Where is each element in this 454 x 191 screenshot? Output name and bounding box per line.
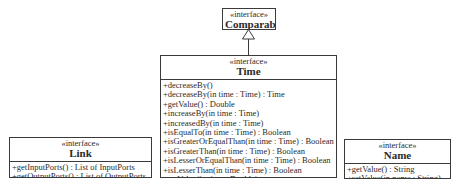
class-name: Time [163,66,334,77]
class-box-comparable: «interface» Comparable [222,8,276,30]
methods-compartment-time: +decreaseBy()+decreaseBy(in time : Time)… [161,79,336,177]
class-box-name: «interface» Name +getValue() : String+se… [344,139,451,179]
class-box-time: «interface» Time +decreaseBy()+decreaseB… [160,55,337,178]
class-header-time: «interface» Time [161,56,336,79]
class-header-link: «interface» Link [10,138,151,161]
methods-compartment-name: +getValue() : String+setValue(in name : … [345,163,450,178]
uml-class-diagram: «interface» Comparable «interface» Time … [0,0,454,191]
method-entry: +setValue(in time : Double) [163,175,335,177]
methods-compartment-link: +getInputPorts() : List of InputPorts+ge… [10,161,151,177]
class-name: Name [347,150,448,161]
class-box-link: «interface» Link +getInputPorts() : List… [9,137,152,178]
method-entry: +setValue(in name : String) [347,174,449,178]
class-name: Link [12,148,149,159]
method-entry: +getOutputPorts() : List of OutputPorts [12,172,150,177]
realization-arrow [240,29,257,55]
class-header-name: «interface» Name [345,140,450,163]
class-header-comparable: «interface» Comparable [223,9,275,30]
